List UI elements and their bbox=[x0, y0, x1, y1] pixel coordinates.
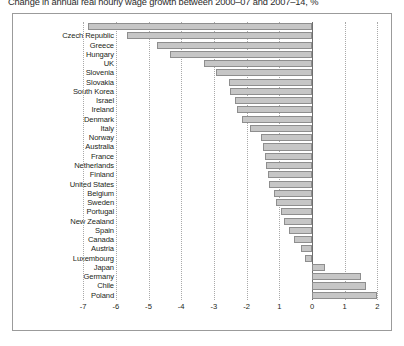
bar-row bbox=[0, 235, 404, 244]
bar bbox=[305, 255, 312, 262]
x-tick-label: 2 bbox=[375, 302, 379, 311]
x-axis-ticks: -7-6-5-4-3-21012 bbox=[0, 302, 404, 316]
x-tick-label: 1 bbox=[277, 302, 281, 311]
bar bbox=[269, 181, 312, 188]
bar bbox=[312, 273, 361, 280]
bar-row bbox=[0, 41, 404, 50]
bar bbox=[230, 88, 312, 95]
x-tick-label: -3 bbox=[211, 302, 218, 311]
bar bbox=[216, 69, 312, 76]
x-tick-label: -5 bbox=[145, 302, 152, 311]
bar bbox=[266, 162, 312, 169]
bar bbox=[229, 79, 312, 86]
bar bbox=[250, 125, 312, 132]
bar-row bbox=[0, 226, 404, 235]
bar bbox=[157, 42, 312, 49]
bar-row bbox=[0, 254, 404, 263]
bar bbox=[281, 208, 312, 215]
bar-row bbox=[0, 68, 404, 77]
bar-row bbox=[0, 180, 404, 189]
bar bbox=[265, 153, 312, 160]
bar bbox=[88, 23, 312, 30]
bar-row bbox=[0, 124, 404, 133]
bar-row bbox=[0, 78, 404, 87]
bar-row bbox=[0, 115, 404, 124]
bar bbox=[237, 106, 312, 113]
bar-row bbox=[0, 133, 404, 142]
bar-row bbox=[0, 87, 404, 96]
bar-row bbox=[0, 281, 404, 290]
bar-row bbox=[0, 244, 404, 253]
bar bbox=[301, 245, 312, 252]
bar bbox=[274, 190, 312, 197]
bar bbox=[235, 97, 312, 104]
bar bbox=[312, 292, 377, 299]
bar bbox=[284, 218, 312, 225]
bars-canvas bbox=[0, 22, 404, 300]
bar-row bbox=[0, 198, 404, 207]
plot-area: EstoniaCzech RepublicGreeceHungaryUKSlov… bbox=[0, 0, 404, 346]
bar-row bbox=[0, 96, 404, 105]
bar-row bbox=[0, 105, 404, 114]
bar-row bbox=[0, 272, 404, 281]
bar-row bbox=[0, 31, 404, 40]
bar-row bbox=[0, 263, 404, 272]
bar bbox=[242, 116, 312, 123]
bar-row bbox=[0, 142, 404, 151]
bar bbox=[261, 134, 312, 141]
x-tick-label: 0 bbox=[310, 302, 314, 311]
bar bbox=[268, 171, 312, 178]
x-tick-label: -4 bbox=[178, 302, 185, 311]
bar bbox=[312, 282, 366, 289]
bar-row bbox=[0, 170, 404, 179]
bar-row bbox=[0, 207, 404, 216]
bar bbox=[312, 264, 325, 271]
bar-row bbox=[0, 291, 404, 300]
bar-row bbox=[0, 22, 404, 31]
x-tick-label: 1 bbox=[343, 302, 347, 311]
x-tick-label: -2 bbox=[243, 302, 250, 311]
bar-row bbox=[0, 161, 404, 170]
bar bbox=[294, 236, 312, 243]
bar bbox=[204, 60, 312, 67]
bar-row bbox=[0, 152, 404, 161]
bar bbox=[289, 227, 312, 234]
bar bbox=[170, 51, 312, 58]
bar-row bbox=[0, 189, 404, 198]
x-tick-label: -6 bbox=[112, 302, 119, 311]
bar-row bbox=[0, 50, 404, 59]
x-tick-label: -7 bbox=[80, 302, 87, 311]
bar bbox=[276, 199, 312, 206]
bar-row bbox=[0, 59, 404, 68]
bar-row bbox=[0, 217, 404, 226]
bar bbox=[127, 32, 312, 39]
bar bbox=[263, 143, 312, 150]
